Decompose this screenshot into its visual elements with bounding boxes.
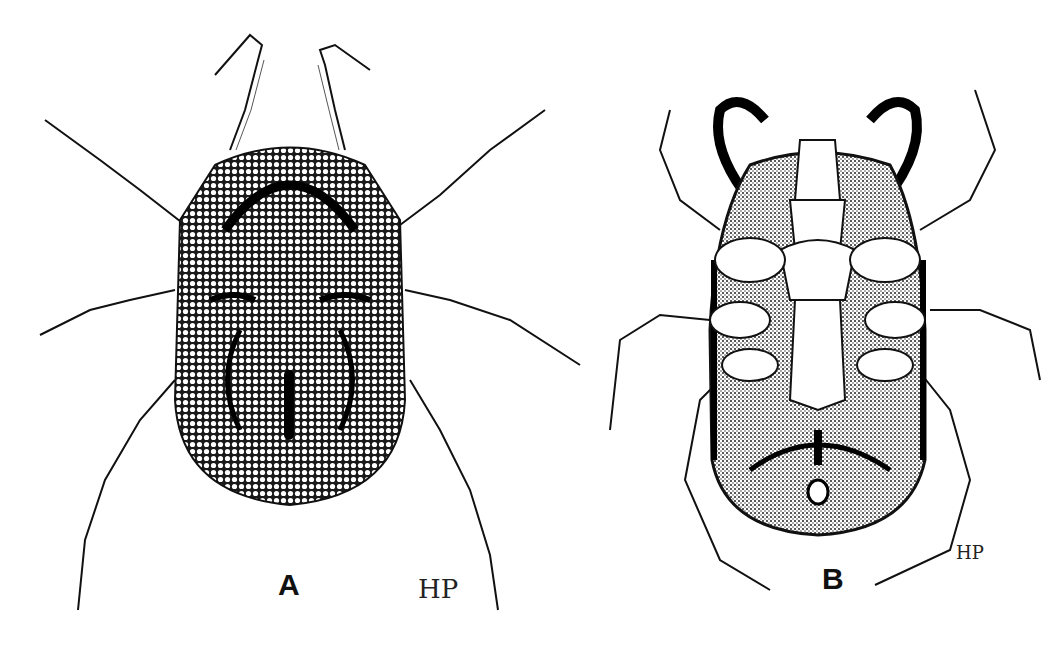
panel-label-a: A xyxy=(278,568,300,602)
panel-b-ventral-mite: B HP xyxy=(590,0,1042,646)
artist-signature-b: HP xyxy=(956,542,984,563)
panel-a-dorsal-mite: A HP xyxy=(0,0,600,646)
panel-label-b: B xyxy=(822,562,844,596)
mite-dorsal-illustration xyxy=(0,0,600,646)
artist-signature-a: HP xyxy=(418,574,458,604)
